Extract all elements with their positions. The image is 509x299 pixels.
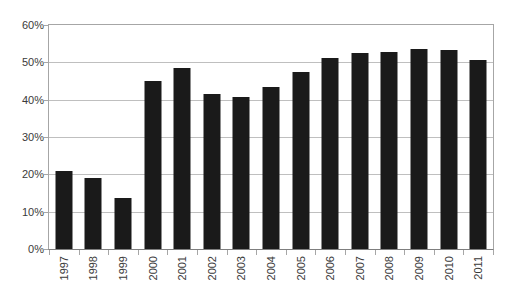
bars-layer <box>49 25 493 249</box>
bar[interactable] <box>322 58 339 249</box>
x-axis-tick-mark <box>197 250 198 255</box>
bar-slot <box>256 25 286 249</box>
x-axis-label-slot: 2007 <box>345 256 375 299</box>
x-axis-tick-label: 1998 <box>88 256 99 280</box>
bar[interactable] <box>470 60 487 249</box>
x-axis-tick-label: 2004 <box>266 256 277 280</box>
x-axis-tick-mark <box>227 250 228 255</box>
bar[interactable] <box>351 53 368 249</box>
bar[interactable] <box>85 178 102 249</box>
x-axis-tick-label: 2008 <box>384 256 395 280</box>
x-axis-tick-label: 2000 <box>148 256 159 280</box>
bar-slot <box>404 25 434 249</box>
x-axis-tick-mark <box>286 250 287 255</box>
bar-slot <box>79 25 109 249</box>
x-axis-tick-mark <box>345 250 346 255</box>
bar-slot <box>197 25 227 249</box>
bar-slot <box>434 25 464 249</box>
x-axis-tick-label: 2003 <box>236 256 247 280</box>
x-axis-tick-mark <box>167 250 168 255</box>
bar[interactable] <box>440 50 457 249</box>
x-axis-tick-mark <box>463 250 464 255</box>
bar-slot <box>138 25 168 249</box>
bar-slot <box>227 25 257 249</box>
x-axis-tick-mark <box>108 250 109 255</box>
y-axis-tick-label: 0% <box>0 244 44 255</box>
x-axis-label-slot: 2008 <box>375 256 405 299</box>
x-axis-tick-label: 2001 <box>177 256 188 280</box>
bar[interactable] <box>381 52 398 249</box>
x-axis-tick-mark <box>493 250 494 255</box>
bar[interactable] <box>292 72 309 249</box>
bar[interactable] <box>174 68 191 249</box>
x-axis-label-slot: 2004 <box>256 256 286 299</box>
x-axis-label-slot: 1997 <box>49 256 79 299</box>
x-axis-label-slot: 2000 <box>138 256 168 299</box>
bar-chart: 0%10%20%30%40%50%60% 1997199819992000200… <box>0 0 509 299</box>
x-axis-tick-label: 1999 <box>118 256 129 280</box>
x-axis-tick-label: 2009 <box>414 256 425 280</box>
bar[interactable] <box>262 87 279 249</box>
x-axis-label-slot: 1999 <box>108 256 138 299</box>
x-axis-label-slot: 2003 <box>227 256 257 299</box>
x-axis-label-slot: 2002 <box>197 256 227 299</box>
x-axis-label-slot: 2005 <box>286 256 316 299</box>
x-axis-tick-mark <box>434 250 435 255</box>
bar[interactable] <box>233 97 250 249</box>
x-axis-tick-mark <box>79 250 80 255</box>
x-axis-tick-mark <box>404 250 405 255</box>
bar-slot <box>49 25 79 249</box>
x-axis-tick-label: 2006 <box>325 256 336 280</box>
bar-slot <box>167 25 197 249</box>
bar-slot <box>345 25 375 249</box>
bar[interactable] <box>144 81 161 249</box>
x-axis-tick-label: 2011 <box>473 256 484 280</box>
x-axis-label-slot: 2006 <box>315 256 345 299</box>
y-axis-tick-label: 10% <box>0 206 44 217</box>
x-axis-label-slot: 2001 <box>167 256 197 299</box>
x-axis-label-slot: 2011 <box>463 256 493 299</box>
x-axis-ticks <box>49 250 493 255</box>
y-axis-tick-label: 60% <box>0 20 44 31</box>
bar-slot <box>463 25 493 249</box>
bar[interactable] <box>55 171 72 249</box>
y-axis-tick-label: 30% <box>0 132 44 143</box>
x-axis-tick-mark <box>138 250 139 255</box>
x-axis-tick-mark <box>375 250 376 255</box>
x-axis-tick-label: 2005 <box>296 256 307 280</box>
x-axis-tick-mark <box>256 250 257 255</box>
x-axis-tick-label: 1997 <box>59 256 70 280</box>
x-axis-label-slot: 2009 <box>404 256 434 299</box>
x-axis-tick-mark <box>49 250 50 255</box>
bar-slot <box>286 25 316 249</box>
y-axis-tick-label: 50% <box>0 57 44 68</box>
x-axis-label-slot: 1998 <box>79 256 109 299</box>
bar[interactable] <box>114 198 131 249</box>
x-axis-label-slot: 2010 <box>434 256 464 299</box>
x-axis-tick-label: 2010 <box>444 256 455 280</box>
x-axis-tick-mark <box>315 250 316 255</box>
x-axis-tick-label: 2007 <box>355 256 366 280</box>
x-axis-tick-label: 2002 <box>207 256 218 280</box>
y-axis: 0%10%20%30%40%50%60% <box>0 24 44 250</box>
bar-slot <box>108 25 138 249</box>
bar[interactable] <box>203 94 220 249</box>
bar[interactable] <box>410 49 427 249</box>
y-axis-tick-label: 40% <box>0 94 44 105</box>
bar-slot <box>315 25 345 249</box>
x-axis: 1997199819992000200120022003200420052006… <box>49 256 493 299</box>
bar-slot <box>375 25 405 249</box>
y-axis-tick-label: 20% <box>0 169 44 180</box>
